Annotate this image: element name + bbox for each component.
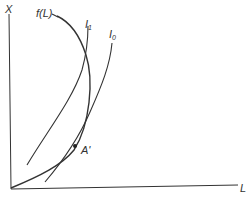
i1-label: I1 [85, 18, 92, 31]
diagram-canvas: X L f(L) I1 I0 A' [0, 0, 252, 200]
y-axis [9, 14, 11, 189]
point-label: A' [80, 144, 91, 156]
f-curve-label: f(L) [36, 7, 53, 19]
indifference-curve-i1 [27, 26, 88, 165]
production-curve [11, 16, 90, 188]
y-axis-label: X [4, 3, 13, 15]
i0-label: I0 [109, 28, 116, 41]
x-axis [11, 185, 238, 189]
tangency-point [73, 144, 77, 148]
f-label-leader [52, 14, 58, 17]
indifference-curve-i0 [45, 43, 112, 182]
x-axis-label: L [240, 182, 246, 194]
